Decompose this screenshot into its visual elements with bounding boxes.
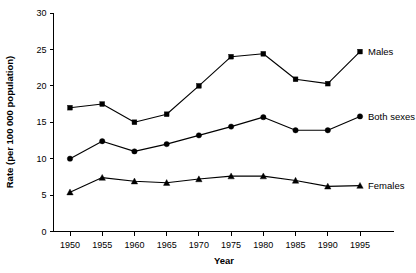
y-tick-label: 5 (41, 190, 46, 200)
data-point-marker (229, 54, 234, 59)
x-axis-ticks (70, 232, 360, 236)
x-tick-label: 1955 (92, 240, 112, 250)
data-point-marker (164, 141, 169, 146)
x-tick-label: 1990 (318, 240, 338, 250)
line-chart: 051015202530 195019551960196519701975198… (0, 0, 416, 273)
data-point-marker (261, 51, 266, 56)
data-point-marker (325, 128, 330, 133)
data-point-marker (325, 81, 330, 86)
y-tick-label: 0 (41, 227, 46, 237)
y-tick-label: 25 (36, 45, 46, 55)
x-tick-label: 1950 (60, 240, 80, 250)
data-point-marker (293, 77, 298, 82)
x-tick-label: 1965 (157, 240, 177, 250)
y-axis-ticks (50, 13, 54, 232)
data-point-marker (132, 120, 137, 125)
data-point-marker (100, 102, 105, 107)
x-tick-label: 1995 (350, 240, 370, 250)
series-label-females: Females (368, 180, 405, 191)
axes-group (54, 13, 395, 232)
series-annotation-labels: MalesBoth sexesFemales (368, 46, 415, 191)
x-tick-label: 1985 (286, 240, 306, 250)
data-point-marker (228, 124, 233, 129)
x-tick-label: 1975 (221, 240, 241, 250)
data-point-marker (261, 114, 266, 119)
y-tick-label: 30 (36, 8, 46, 18)
series-line (70, 52, 360, 123)
x-tick-label: 1960 (124, 240, 144, 250)
data-point-marker (293, 128, 298, 133)
x-tick-label: 1970 (189, 240, 209, 250)
y-axis-title: Rate (per 100 000 population) (4, 56, 15, 189)
y-tick-label: 20 (36, 81, 46, 91)
chart-canvas: 051015202530 195019551960196519701975198… (0, 0, 416, 273)
data-point-marker (132, 149, 137, 154)
series-line (70, 116, 360, 158)
x-axis-tick-labels: 1950195519601965197019751980198519901995 (60, 240, 370, 250)
y-axis-tick-labels: 051015202530 (36, 8, 46, 237)
data-point-marker (100, 138, 105, 143)
series-both-sexes (67, 114, 362, 162)
series-males (68, 49, 363, 124)
y-tick-label: 15 (36, 117, 46, 127)
x-tick-label: 1980 (253, 240, 273, 250)
series-line (70, 176, 360, 192)
data-point-marker (357, 114, 362, 119)
series-label-males: Males (368, 46, 394, 57)
y-tick-label: 10 (36, 154, 46, 164)
data-point-marker (358, 49, 363, 54)
data-point-marker (196, 133, 201, 138)
data-point-marker (164, 112, 169, 117)
data-point-marker (68, 105, 73, 110)
x-axis-title: Year (214, 255, 234, 266)
series-females (67, 173, 363, 195)
data-point-marker (196, 83, 201, 88)
series-layer (67, 49, 363, 195)
series-label-both-sexes: Both sexes (368, 111, 415, 122)
data-point-marker (67, 156, 72, 161)
data-point-marker (67, 189, 73, 195)
